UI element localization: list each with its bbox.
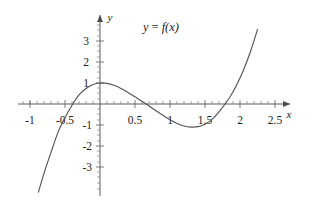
y-tick-label-neg3: -3	[82, 161, 92, 173]
graph-figure: -1 -0.5 0.5 1 1.5 2 2.5 x	[0, 0, 316, 205]
x-axis-arrowhead	[283, 101, 290, 107]
equation-label: y=f(x)	[141, 20, 179, 34]
equation-rhs: f(x)	[162, 20, 179, 34]
x-tick-label-2: 2	[237, 114, 243, 126]
x-axis-name-label: x	[286, 108, 292, 120]
x-tick-label-neg0p5: -0.5	[56, 114, 74, 126]
y-tick-label-2: 2	[83, 56, 89, 68]
equation-operator: =	[152, 20, 159, 34]
y-axis-arrowhead	[97, 15, 103, 22]
equation-lhs: y	[141, 20, 149, 34]
x-tick-label-neg1: -1	[25, 114, 35, 126]
x-tick-label-0p5: 0.5	[128, 114, 143, 126]
y-tick-label-3: 3	[83, 35, 89, 47]
y-axis-name-label: y	[107, 11, 113, 23]
y-tick-label-neg1: -1	[82, 119, 92, 131]
y-tick-label-neg2: -2	[82, 140, 92, 152]
function-curve	[38, 29, 257, 192]
y-axis: 3 2 1 -1 -2 -3 y	[82, 11, 112, 196]
x-axis: -1 -0.5 0.5 1 1.5 2 2.5 x	[18, 100, 292, 126]
cartesian-plot: -1 -0.5 0.5 1 1.5 2 2.5 x	[0, 0, 316, 205]
x-tick-label-2p5: 2.5	[268, 114, 283, 126]
